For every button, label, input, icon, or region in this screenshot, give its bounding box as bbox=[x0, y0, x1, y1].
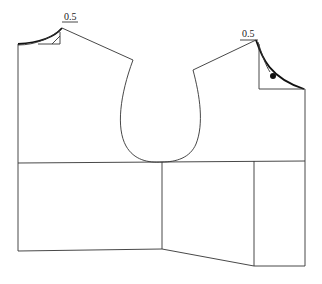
right-neck-box bbox=[259, 44, 305, 89]
right-neckline-curve bbox=[256, 40, 304, 89]
right-neck-measure-label: 0.5 bbox=[242, 28, 255, 39]
back-hem-line bbox=[18, 249, 162, 251]
waist-line bbox=[18, 161, 305, 163]
left-neck-measure-label: 0.5 bbox=[64, 11, 77, 22]
left-shoulder-line bbox=[62, 28, 133, 60]
notch-dot-icon bbox=[270, 73, 276, 79]
side-hem-line bbox=[162, 249, 254, 266]
right-shoulder-line bbox=[193, 40, 256, 70]
left-neck-diagonal bbox=[52, 36, 60, 44]
pattern-diagram: 0.5 0.5 bbox=[0, 0, 322, 284]
armhole-curve bbox=[120, 60, 200, 162]
